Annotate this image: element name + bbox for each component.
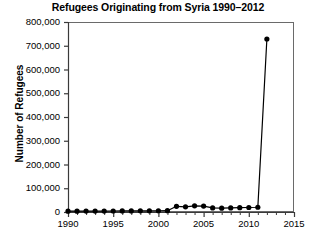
y-axis-tick-label: 600,000 xyxy=(2,65,60,75)
data-point-marker xyxy=(237,205,242,210)
data-point-marker xyxy=(74,209,79,214)
data-point-marker xyxy=(246,205,251,210)
x-axis-tick-label: 2005 xyxy=(182,219,226,229)
data-point-marker xyxy=(129,208,134,213)
y-axis-tick-label: 800,000 xyxy=(2,17,60,27)
data-point-marker xyxy=(111,208,116,213)
x-axis-tick-label: 2015 xyxy=(272,219,316,229)
data-point-marker xyxy=(219,206,224,211)
plot-border xyxy=(69,23,294,212)
data-point-marker xyxy=(210,205,215,210)
y-axis-tick-label: 300,000 xyxy=(2,136,60,146)
y-axis-tick-label: 500,000 xyxy=(2,88,60,98)
data-point-marker xyxy=(138,208,143,213)
data-point-marker xyxy=(165,208,170,213)
y-axis-tick-label: 0 xyxy=(2,207,60,217)
data-line xyxy=(68,39,267,211)
y-axis-tick-label: 200,000 xyxy=(2,160,60,170)
data-point-marker xyxy=(201,203,206,208)
x-axis-tick-label: 2000 xyxy=(136,219,180,229)
data-point-marker xyxy=(174,204,179,209)
data-point-marker xyxy=(147,208,152,213)
data-point-marker xyxy=(83,209,88,214)
data-point-marker xyxy=(228,205,233,210)
x-axis-tick-label: 1990 xyxy=(46,219,90,229)
data-point-marker xyxy=(183,204,188,209)
x-axis-tick-label: 2010 xyxy=(227,219,271,229)
y-axis-tick-label: 100,000 xyxy=(2,183,60,193)
data-point-marker xyxy=(264,36,269,41)
data-point-marker xyxy=(102,208,107,213)
data-point-marker xyxy=(120,208,125,213)
data-point-marker xyxy=(192,203,197,208)
y-axis-tick-label: 700,000 xyxy=(2,41,60,51)
chart-figure: Refugees Originating from Syria 1990–201… xyxy=(0,0,316,252)
data-point-marker xyxy=(93,209,98,214)
x-axis-tick-label: 1995 xyxy=(91,219,135,229)
data-point-marker xyxy=(65,209,70,214)
y-axis-tick-label: 400,000 xyxy=(2,112,60,122)
data-point-marker xyxy=(255,205,260,210)
data-point-marker xyxy=(156,208,161,213)
